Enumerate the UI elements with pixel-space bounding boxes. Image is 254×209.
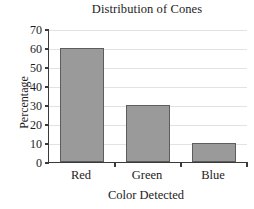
y-tick-label: 50	[16, 62, 42, 74]
y-tick-label: 20	[16, 119, 42, 131]
bar	[60, 48, 104, 162]
x-category-label: Blue	[180, 168, 246, 183]
x-tick-mark	[180, 162, 181, 167]
y-tick-mark	[45, 29, 49, 30]
chart-title: Distribution of Cones	[40, 2, 254, 17]
bar	[192, 143, 236, 162]
x-category-label: Green	[114, 168, 180, 183]
y-tick-label: 0	[16, 157, 42, 169]
y-tick-mark	[45, 48, 49, 49]
y-tick-label: 30	[16, 100, 42, 112]
y-tick-mark	[45, 124, 49, 125]
plot-area	[48, 30, 246, 163]
y-tick-label: 40	[16, 81, 42, 93]
x-tick-mark	[114, 162, 115, 167]
x-tick-mark	[246, 162, 247, 167]
y-tick-mark	[45, 162, 49, 163]
y-tick-mark	[45, 67, 49, 68]
y-tick-label: 70	[16, 24, 42, 36]
y-tick-mark	[45, 86, 49, 87]
gridline	[49, 30, 247, 31]
bar	[126, 105, 170, 162]
y-tick-label: 60	[16, 43, 42, 55]
y-tick-mark	[45, 143, 49, 144]
y-tick-mark	[45, 105, 49, 106]
bar-chart: Distribution of Cones Percentage Color D…	[0, 0, 254, 209]
x-category-label: Red	[48, 168, 114, 183]
y-tick-label: 10	[16, 138, 42, 150]
x-axis-title: Color Detected	[46, 188, 246, 203]
